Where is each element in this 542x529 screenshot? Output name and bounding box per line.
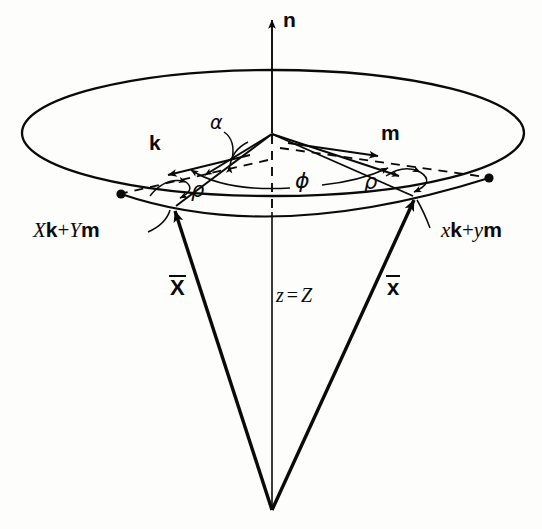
left-rim-point-dot (116, 189, 125, 198)
m-direction-dashed-chord (280, 148, 486, 177)
right-expr-y: y (474, 218, 483, 242)
left-expr-X: X (33, 218, 46, 242)
right-point-expression: xk+ym (441, 219, 502, 241)
X-bar-glyph: X (170, 277, 185, 299)
left-point-expression: Xk+Ym (33, 219, 100, 241)
alpha-leader-curve (224, 132, 233, 160)
depth-Z-glyph: Z (301, 284, 312, 306)
depth-equals-glyph: = (284, 284, 301, 306)
right-expr-k: k (450, 218, 462, 241)
rho-right-hook-curve (414, 172, 427, 192)
alpha-angle-label: α (210, 113, 223, 132)
right-rim-point-dot (484, 173, 493, 182)
k-vector-label: k (149, 132, 161, 153)
rho-right-angle-label: ρ (364, 172, 377, 193)
x-bar-vector-label: x (387, 277, 399, 299)
depth-z-glyph: z (276, 284, 284, 306)
left-expr-k: k (46, 218, 58, 241)
generator-line-hub-to-right-ray (272, 134, 399, 176)
diagram-canvas (0, 0, 542, 529)
x-bar-slant-vector (272, 200, 414, 510)
generator-line-hub-to-left-rim (205, 134, 272, 175)
normal-axis-label: n (283, 9, 296, 30)
left-point-leader-curve (148, 210, 170, 232)
left-expr-m: m (81, 218, 100, 241)
phi-angle-arc-left (191, 170, 290, 189)
rho-left-angle-label: ρ (191, 180, 204, 201)
left-expr-plus: + (58, 218, 70, 242)
X-bar-vector-label: X (170, 277, 185, 299)
x-bar-glyph: x (387, 277, 399, 299)
X-bar-slant-vector (175, 211, 272, 510)
left-expr-Y: Y (69, 218, 81, 242)
right-expr-plus: + (462, 218, 474, 242)
m-vector-label: m (381, 122, 400, 143)
rho-right-angle-arc (386, 169, 420, 176)
right-expr-x: x (441, 218, 450, 242)
depth-axis-label: z=Z (276, 285, 312, 305)
right-point-leader-curve (417, 200, 430, 228)
phi-angle-label: ϕ (295, 170, 310, 192)
cone-top-rim-ellipse (22, 70, 524, 196)
cone-geometry-figure: n k m α ϕ ρ ρ Xk+Ym xk+ym X x z=Z (0, 0, 542, 529)
right-expr-m: m (483, 218, 502, 241)
